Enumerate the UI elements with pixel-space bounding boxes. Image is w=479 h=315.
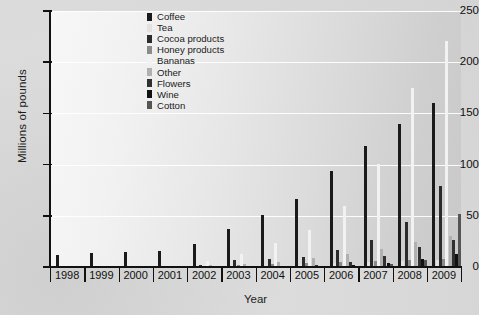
bar-group — [358, 11, 392, 267]
legend-label: Coffee — [157, 11, 185, 22]
y-tick-50 — [43, 215, 52, 217]
legend-swatch-icon — [147, 68, 152, 76]
legend-item-wine[interactable]: Wine — [147, 89, 262, 100]
x-tick-label-2006: 2006 — [324, 269, 358, 281]
x-tick-label-1998: 1998 — [50, 269, 84, 281]
bar — [261, 215, 264, 267]
x-axis-title: Year — [50, 293, 461, 305]
bar — [90, 253, 93, 267]
x-tick-label-2007: 2007 — [358, 269, 392, 281]
legend-label: Tea — [157, 22, 172, 33]
legend-item-other[interactable]: Other — [147, 66, 262, 77]
y-tick-label-250: 250 — [437, 4, 479, 16]
bar-group — [84, 11, 118, 267]
x-tick-label-2002: 2002 — [187, 269, 221, 281]
bar-group — [290, 11, 324, 267]
legend-label: Bananas — [157, 55, 195, 66]
y-tick-150 — [43, 113, 52, 115]
legend-label: Other — [157, 67, 181, 78]
bar — [227, 229, 230, 267]
legend-item-honey-products[interactable]: Honey products — [147, 44, 262, 55]
x-tick-separator — [461, 268, 462, 282]
legend-label: Wine — [157, 89, 179, 100]
x-tick-label-2001: 2001 — [153, 269, 187, 281]
legend-label: Honey products — [157, 44, 224, 55]
legend-swatch-icon — [147, 101, 152, 109]
y-axis-title: Millions of pounds — [16, 56, 28, 176]
legend-swatch-icon — [147, 57, 152, 65]
x-tick-label-2009: 2009 — [427, 269, 461, 281]
bar — [364, 146, 367, 267]
bar — [398, 124, 401, 267]
bar-chart: Millions of pounds 050100150200250 19981… — [0, 0, 479, 315]
y-tick-label-100: 100 — [437, 158, 479, 170]
legend-item-tea[interactable]: Tea — [147, 22, 262, 33]
y-tick-100 — [43, 164, 52, 166]
y-tick-label-150: 150 — [437, 106, 479, 118]
x-tick-label-2003: 2003 — [221, 269, 255, 281]
x-tick-label-1999: 1999 — [84, 269, 118, 281]
legend-item-cotton[interactable]: Cotton — [147, 100, 262, 111]
bar — [295, 199, 298, 267]
bar-group — [50, 11, 84, 267]
legend-label: Cotton — [157, 100, 185, 111]
bar — [330, 171, 333, 267]
bar-group — [427, 11, 461, 267]
legend-swatch-icon — [147, 35, 152, 43]
bar — [445, 41, 448, 267]
y-tick-200 — [43, 61, 52, 63]
x-axis-labels: 1998199920002001200220032004200520062007… — [50, 268, 461, 288]
legend-swatch-icon — [147, 90, 152, 98]
x-tick-label-2004: 2004 — [256, 269, 290, 281]
bar — [158, 251, 161, 267]
legend-label: Flowers — [157, 78, 191, 89]
bar — [439, 186, 442, 267]
y-tick-250 — [43, 10, 52, 12]
y-axis-line — [49, 10, 51, 268]
bar — [458, 214, 461, 267]
legend-item-flowers[interactable]: Flowers — [147, 78, 262, 89]
bar — [193, 244, 196, 267]
legend-item-coffee[interactable]: Coffee — [147, 11, 262, 22]
bar-group — [393, 11, 427, 267]
legend-item-cocoa-products[interactable]: Cocoa products — [147, 33, 262, 44]
legend-swatch-icon — [147, 13, 152, 21]
legend-swatch-icon — [147, 24, 152, 32]
bar — [411, 88, 414, 267]
y-tick-label-50: 50 — [437, 209, 479, 221]
legend-label: Cocoa products — [157, 33, 224, 44]
legend: CoffeeTeaCocoa productsHoney productsBan… — [147, 11, 262, 111]
bar — [432, 103, 435, 267]
legend-item-bananas[interactable]: Bananas — [147, 55, 262, 66]
x-tick-label-2008: 2008 — [393, 269, 427, 281]
x-tick-label-2005: 2005 — [290, 269, 324, 281]
bar — [124, 252, 127, 267]
bar-group — [324, 11, 358, 267]
x-tick-label-2000: 2000 — [119, 269, 153, 281]
legend-swatch-icon — [147, 46, 152, 54]
y-tick-label-200: 200 — [437, 55, 479, 67]
legend-swatch-icon — [147, 79, 152, 87]
